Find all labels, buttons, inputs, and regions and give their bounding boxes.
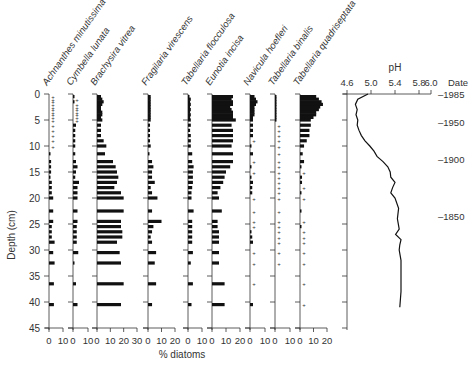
abundance-bar [97, 129, 101, 132]
rare-marker: + [252, 209, 256, 215]
abundance-bar [188, 176, 193, 179]
abundance-bar [300, 160, 304, 163]
ph-tick-label: 4.6 [340, 77, 353, 88]
abundance-bar [49, 241, 55, 244]
abundance-bar [212, 186, 220, 189]
abundance-bar [97, 235, 122, 238]
abundance-bar [148, 181, 155, 184]
abundance-bar [73, 181, 79, 184]
abundance-bar [250, 230, 252, 233]
depth-tick-label: 5 [34, 115, 40, 126]
abundance-bar [73, 225, 77, 228]
abundance-bar [188, 160, 192, 163]
ph-panel: 4.65.05.45.86.0pHDate–1985–1950–1900–185… [340, 62, 468, 330]
abundance-bar [49, 230, 52, 233]
abundance-bar [188, 191, 192, 194]
abundance-bar [212, 134, 233, 137]
abundance-bar [148, 209, 152, 212]
abundance-bar [212, 181, 223, 184]
abundance-bar [97, 144, 106, 147]
rare-marker: + [277, 151, 281, 157]
date-tick-label: –1900 [438, 154, 464, 165]
abundance-bar [188, 225, 192, 228]
abundance-bar [148, 230, 152, 233]
abundance-bar [148, 118, 151, 121]
abundance-bar [300, 225, 302, 228]
abundance-bar [73, 165, 78, 168]
ph-curve [355, 94, 401, 307]
abundance-bar [212, 303, 225, 306]
abundance-bar [148, 160, 152, 163]
x-tick-label: 10 [156, 335, 167, 346]
x-tick-label: 20 [235, 335, 246, 346]
rare-marker: + [302, 250, 306, 256]
rare-marker: + [252, 250, 256, 256]
abundance-bar [300, 139, 307, 142]
abundance-bar [97, 241, 117, 244]
rare-marker: + [277, 250, 281, 256]
diatom-stratigraphy-chart: ++++++++++++++++++++++++++++++++++++++++… [0, 0, 475, 376]
rare-marker: + [252, 138, 256, 144]
depth-axis-label: Depth (cm) [6, 210, 17, 259]
abundance-bar [49, 165, 51, 168]
abundance-bar [188, 251, 193, 254]
abundance-bar [148, 241, 152, 244]
x-tick-label: 10 [221, 335, 232, 346]
abundance-bar [275, 118, 277, 121]
abundance-bar [148, 129, 150, 132]
abundance-bar [188, 134, 191, 137]
abundance-bar [148, 303, 152, 306]
abundance-bar [300, 124, 311, 127]
abundance-bar [188, 129, 190, 132]
abundance-bar [97, 165, 116, 168]
abundance-bar [73, 170, 76, 173]
abundance-bar [188, 230, 192, 233]
depth-tick-label: 15 [29, 167, 41, 178]
abundance-bar [300, 209, 302, 212]
ph-tick-label: 6.0 [424, 77, 437, 88]
abundance-bar [300, 152, 303, 155]
abundance-bar [212, 196, 219, 199]
abundance-bar [73, 251, 78, 254]
abundance-bar [188, 282, 193, 285]
rare-marker: + [277, 240, 281, 246]
abundance-bar [73, 230, 77, 233]
abundance-bar [250, 191, 252, 194]
abundance-bar [73, 139, 75, 142]
x-tick-label: 10 [260, 335, 271, 346]
abundance-bar [97, 225, 121, 228]
abundance-bar [250, 235, 252, 238]
abundance-bar [148, 165, 153, 168]
abundance-bar [73, 160, 76, 163]
x-tick-label: 20 [118, 335, 129, 346]
abundance-bar [148, 144, 151, 147]
rare-marker: + [252, 281, 256, 287]
abundance-bar [49, 303, 54, 306]
abundance-bar [49, 152, 51, 155]
date-tick-label: –1850 [438, 211, 464, 222]
rare-marker: + [302, 281, 306, 287]
ph-axis-label: pH [389, 62, 402, 73]
rare-marker: + [302, 261, 306, 267]
rare-marker: + [252, 196, 256, 202]
abundance-bar [73, 144, 75, 147]
abundance-bar [97, 170, 117, 173]
abundance-bar [97, 209, 124, 212]
rare-marker: + [302, 170, 306, 176]
abundance-bar [97, 118, 102, 121]
abundance-bar [212, 235, 219, 238]
abundance-bar [73, 261, 75, 264]
abundance-bar [212, 261, 219, 264]
abundance-bar [148, 220, 162, 223]
abundance-bar [212, 144, 232, 147]
rare-marker: + [302, 185, 306, 191]
abundance-bar [300, 134, 309, 137]
x-tick-label: 0 [209, 335, 214, 346]
abundance-bar [97, 124, 101, 127]
abundance-bar [300, 181, 302, 184]
abundance-bar [97, 196, 124, 199]
x-tick-label: 0 [247, 335, 252, 346]
abundance-bar [250, 152, 253, 155]
abundance-bar [49, 261, 55, 264]
abundance-bar [300, 191, 302, 194]
